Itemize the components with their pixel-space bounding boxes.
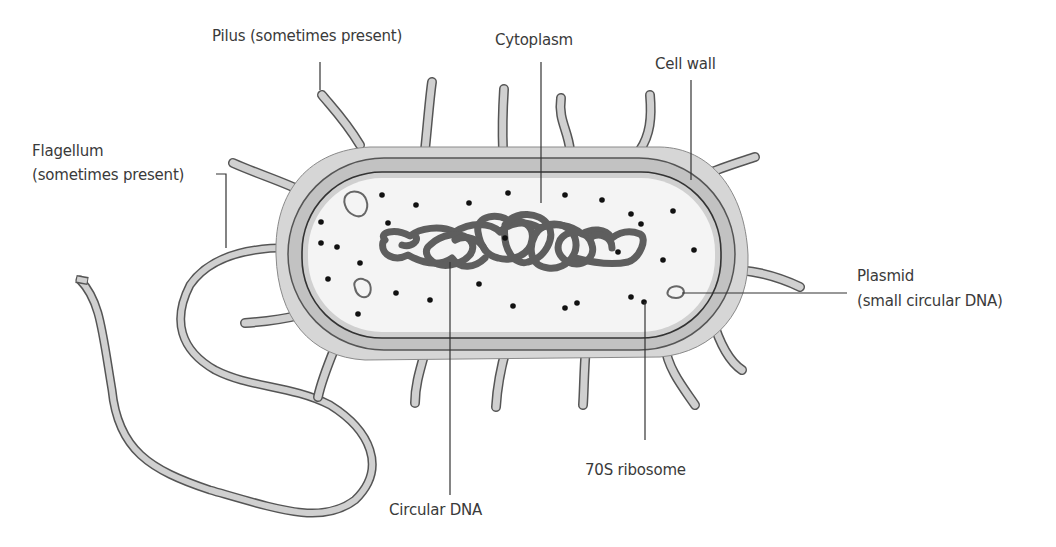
leader-flagellum [216, 174, 226, 248]
label-plasmid-1: Plasmid [857, 267, 914, 286]
label-cytoplasm: Cytoplasm [495, 31, 573, 50]
label-circular-dna: Circular DNA [389, 501, 482, 520]
label-flagellum-1: Flagellum [32, 142, 103, 161]
label-ribosome: 70S ribosome [585, 461, 686, 480]
label-pilus: Pilus (sometimes present) [212, 27, 402, 46]
label-cell-wall: Cell wall [655, 55, 716, 74]
label-plasmid-2: (small circular DNA) [857, 292, 1003, 311]
label-flagellum-2: (sometimes present) [32, 166, 184, 185]
